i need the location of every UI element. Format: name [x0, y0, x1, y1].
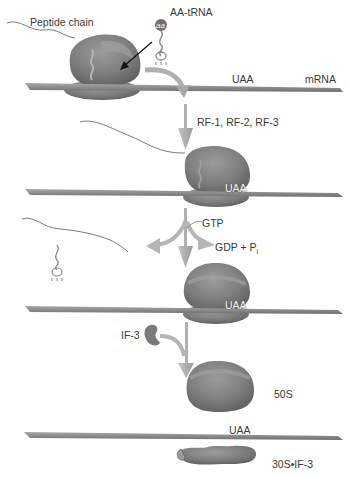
- codon-label: UAA: [229, 424, 251, 436]
- large-subunit-label: 50S: [274, 388, 293, 400]
- gtp-label: GTP: [202, 217, 224, 229]
- arrow-3-4: [160, 322, 194, 378]
- peptide-chain: [80, 121, 185, 153]
- codon-label: UAA: [225, 182, 247, 194]
- if3-label: IF-3: [121, 329, 140, 341]
- released-peptide: [22, 218, 128, 252]
- aa-trna-label: AA-tRNA: [170, 6, 213, 18]
- amino-acid-label: aa: [156, 21, 165, 30]
- release-arrowhead: [146, 238, 160, 254]
- arrow-1-2: [178, 104, 193, 150]
- stage-3: UAA: [25, 263, 343, 324]
- small-subunit-label: 30S•IF-3: [272, 458, 313, 470]
- if3-protein-icon: [145, 325, 161, 346]
- gdp-label: GDP + Pi: [215, 241, 259, 255]
- entry-arrowhead: [176, 85, 190, 98]
- stage-4: 50S UAA 30S•IF-3: [24, 361, 343, 470]
- translation-termination-diagram: Peptide chain UAA mRNA aa AA-tRNA RF-1, …: [0, 0, 350, 477]
- codon-label: UAA: [225, 299, 247, 311]
- mrna-strand: [25, 189, 343, 197]
- released-trna-icon: [52, 245, 62, 281]
- codon-label: UAA: [232, 73, 254, 85]
- mrna-label: mRNA: [305, 73, 336, 85]
- if3-arrow: [160, 336, 184, 356]
- anticodon-ticks: [156, 62, 166, 65]
- release-factors-label: RF-1, RF-2, RF-3: [197, 116, 279, 128]
- peptide-chain-label: Peptide chain: [30, 16, 94, 28]
- gdp-arrowhead: [198, 236, 215, 250]
- large-subunit-50s: [187, 361, 255, 412]
- mrna-strand: [25, 306, 343, 314]
- mrna-strand: [24, 432, 343, 440]
- stage-1: Peptide chain UAA mRNA aa AA-tRNA: [7, 6, 343, 100]
- small-subunit-30s: [179, 446, 256, 465]
